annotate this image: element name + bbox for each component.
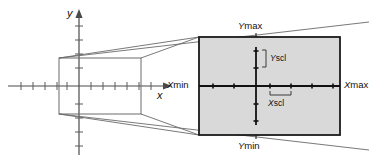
xmin-label: Xmin — [167, 80, 189, 90]
ymax-label-suffix: max — [244, 20, 262, 31]
ymax-label: Ymax — [238, 21, 262, 31]
xmax-label-suffix: max — [350, 79, 368, 90]
xmin-label-suffix: min — [173, 79, 188, 90]
ymin-label: Ymin — [238, 141, 260, 151]
viewing-window-diagram: y x Ymax Ymin Xmin Xmax Yscl Xscl — [0, 0, 369, 165]
xscl-label: Xscl — [268, 99, 284, 108]
y-axis-arrowhead — [75, 9, 82, 18]
coordinate-plane-group — [8, 9, 172, 155]
yscl-label: Yscl — [270, 54, 286, 63]
x-axis-label: x — [157, 90, 163, 101]
calculator-screen-group — [199, 33, 340, 139]
y-axis-label: y — [67, 8, 73, 19]
yscl-label-suffix: scl — [276, 53, 286, 63]
xmax-label: Xmax — [344, 80, 368, 90]
xscl-label-suffix: scl — [274, 98, 284, 108]
ymin-label-suffix: min — [244, 140, 259, 151]
